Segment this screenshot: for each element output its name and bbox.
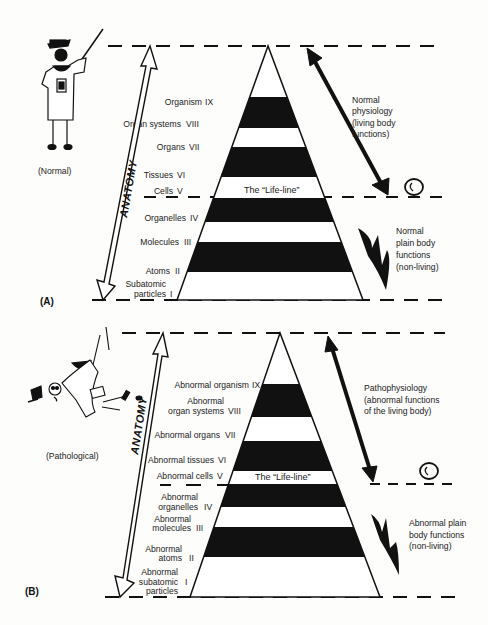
normal-physiology-annotation: Normal physiology (living body functions… — [352, 95, 396, 139]
professor-skeleton-pointing-icon — [42, 29, 103, 150]
annotation-line: Normal — [352, 95, 380, 105]
level-numeral: VIII — [186, 119, 199, 129]
level-label: Abnormal — [141, 567, 178, 577]
level-label: organ systems — [168, 406, 224, 416]
pathophysiology-annotation: Pathophysiology (abnormal functions of t… — [364, 383, 439, 416]
level-label: Organism — [165, 97, 202, 107]
level-label: Cells — [154, 186, 173, 196]
panel-b: The “Life-line” Abnormal organism IX Abn… — [25, 327, 467, 597]
plain-functions-arrow — [358, 228, 389, 290]
level-label: Abnormal — [161, 492, 198, 502]
level-label: Abnormal organs — [155, 430, 220, 440]
level-label: Abnormal organism — [174, 380, 249, 390]
annotation-line: Abnormal plain — [409, 518, 467, 528]
cell-icon — [420, 463, 438, 479]
annotation-line: functions) — [352, 129, 389, 139]
annotation-line: body functions — [409, 530, 464, 540]
level-numeral: VI — [177, 170, 185, 180]
panel-a: The “Life-line” Organism IX Organ system… — [38, 29, 445, 307]
level-label: Atoms — [146, 266, 170, 276]
abnormal-plain-annotation: Abnormal plain body functions (non-livin… — [409, 518, 467, 551]
anatomy-axis-label: ANATOMY — [117, 158, 139, 219]
level-label: Tissues — [144, 170, 173, 180]
level-numeral: III — [184, 237, 191, 247]
level-numeral: IV — [204, 502, 212, 512]
level-numeral: IX — [252, 380, 260, 390]
level-label: particles — [134, 289, 166, 299]
panel-label: (B) — [25, 586, 39, 597]
level-label: Abnormal tissues — [148, 455, 214, 465]
annotation-line: functions — [396, 250, 430, 260]
level-numeral: VIII — [228, 406, 241, 416]
level-numeral: IX — [205, 97, 213, 107]
annotation-line: (non-living) — [409, 541, 452, 551]
level-numeral: VII — [189, 142, 200, 152]
normal-plain-annotation: Normal plain body functions (non-living) — [396, 226, 439, 272]
anatomy-physiology-diagram: The “Life-line” Organism IX Organ system… — [0, 0, 488, 625]
level-numeral: VII — [225, 430, 236, 440]
life-line-label: The “Life-line” — [244, 185, 300, 195]
level-label: Organs — [157, 142, 185, 152]
level-numeral: I — [185, 577, 187, 587]
annotation-line: Pathophysiology — [364, 383, 428, 393]
level-label: Abnormal — [187, 396, 224, 406]
annotation-line: Normal — [396, 226, 424, 236]
abnormal-plain-functions-arrow — [371, 514, 399, 575]
level-label: Abnormal cells — [157, 471, 213, 481]
level-numeral: IV — [190, 213, 198, 223]
level-numeral: VI — [218, 455, 226, 465]
condition-label: (Pathological) — [46, 451, 99, 461]
level-numeral: V — [217, 471, 223, 481]
level-numeral: V — [177, 186, 183, 196]
level-label: organelles — [158, 502, 198, 512]
level-label: particles — [146, 586, 178, 596]
level-label: Organelles — [144, 213, 186, 223]
annotation-line: of the living body) — [364, 406, 431, 416]
level-label: molecules — [152, 523, 191, 533]
pyramid-a — [170, 46, 370, 300]
level-numeral: III — [196, 523, 203, 533]
annotation-line: plain body — [396, 238, 436, 248]
level-label: Subatomic — [125, 279, 166, 289]
level-numeral: II — [175, 266, 180, 276]
fallen-professor-skeleton-icon — [28, 327, 142, 417]
annotation-line: (non-living) — [396, 262, 439, 272]
level-numeral: II — [189, 553, 194, 563]
level-label: Organ systems — [123, 119, 181, 129]
annotation-line: (living body — [352, 118, 396, 128]
level-label: atoms — [159, 553, 182, 563]
life-line-label: The “Life-line” — [255, 472, 311, 482]
annotation-line: physiology — [352, 106, 393, 116]
level-numeral: I — [170, 289, 172, 299]
cell-icon — [405, 179, 423, 195]
level-label: Molecules — [140, 237, 179, 247]
condition-label: (Normal) — [38, 166, 72, 176]
annotation-line: (abnormal functions — [364, 395, 439, 405]
panel-label: (A) — [40, 296, 54, 307]
pyramid-b — [185, 333, 385, 597]
